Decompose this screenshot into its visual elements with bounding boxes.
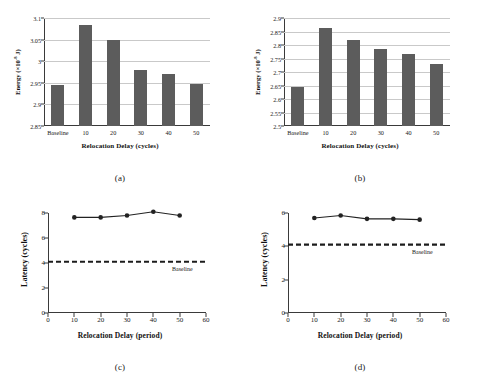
x-tick-label: 60 [203, 313, 210, 324]
y-axis-title-c: Latency (cycles) [20, 214, 29, 306]
bar [107, 40, 120, 126]
x-axis-title-c: Relocation Delay (period) [0, 331, 240, 340]
data-point-marker: 50: 5.6 [417, 217, 422, 222]
x-axis-title-a: Relocation Delay (cycles) [0, 142, 240, 150]
x-tick-label: 50 [416, 313, 423, 324]
x-tick-label: 60 [443, 313, 450, 324]
panel-c: 02468010203040506010: 7.6520: 7.6530: 7.… [0, 191, 240, 382]
y-tick-label: 3 [38, 58, 44, 65]
panel-b: 2.52.552.62.652.72.752.82.852.9Baseline1… [240, 0, 480, 191]
chart-d: 0246010203040506010: 5.720: 5.8530: 5.65… [240, 191, 480, 382]
x-tick-label: 10 [71, 313, 78, 324]
x-tick-label: 20 [110, 126, 116, 136]
y-tick-label: 2.75 [270, 55, 284, 62]
chart-a: 2.852.92.9533.053.1Baseline1020304050 En… [0, 0, 240, 191]
bar [134, 70, 147, 126]
data-point-marker: 30: 5.65 [365, 217, 370, 222]
chart-c: 02468010203040506010: 7.6520: 7.6530: 7.… [0, 191, 240, 382]
plot-area-d: 0246010203040506010: 5.720: 5.8530: 5.65… [288, 213, 446, 313]
figure-grid: 2.852.92.9533.053.1Baseline1020304050 En… [0, 0, 480, 382]
y-tick-label: 2.95 [30, 79, 44, 86]
data-point-marker: 20: 7.65 [98, 215, 103, 220]
y-tick-label: 2.8 [273, 42, 284, 49]
gridline [284, 45, 450, 46]
x-tick-label: 50 [433, 126, 439, 136]
x-tick-label: 0 [286, 313, 290, 324]
panel-caption-c: (c) [0, 362, 240, 372]
gridline [284, 113, 450, 114]
x-tick-label: 0 [46, 313, 50, 324]
x-tick-label: 40 [390, 313, 397, 324]
y-tick-label: 2.9 [273, 15, 284, 22]
data-point-marker: 10: 5.7 [312, 216, 317, 221]
panel-d: 0246010203040506010: 5.720: 5.8530: 5.65… [240, 191, 480, 382]
bar [402, 54, 415, 126]
chart-b: 2.52.552.62.652.72.752.82.852.9Baseline1… [240, 0, 480, 191]
data-point-marker: 50: 7.8 [177, 213, 182, 218]
gridline [44, 104, 210, 105]
x-tick-label: 40 [150, 313, 157, 324]
bar [347, 40, 360, 126]
y-tick-label: 2.65 [270, 82, 284, 89]
x-tick-label: 20 [350, 126, 356, 136]
x-axis-line [284, 125, 450, 126]
x-tick-label: 10 [82, 126, 88, 136]
x-tick-label: 30 [124, 313, 131, 324]
plot-area-c: 02468010203040506010: 7.6520: 7.6530: 7.… [48, 213, 206, 313]
plot-area-b: 2.52.552.62.652.72.752.82.852.9Baseline1… [284, 18, 450, 126]
y-tick-label: 3.1 [33, 15, 44, 22]
bar [374, 49, 387, 126]
panel-a: 2.852.92.9533.053.1Baseline1020304050 En… [0, 0, 240, 191]
x-tick-label: 40 [405, 126, 411, 136]
baseline-annotation: Baseline [412, 249, 433, 255]
y-axis-title-d: Latency (cycles) [260, 214, 269, 306]
panel-caption-a: (a) [0, 173, 240, 183]
x-tick-label: 50 [176, 313, 183, 324]
x-tick-label: 10 [311, 313, 318, 324]
gridline [284, 59, 450, 60]
y-axis-title-a: Energy (×10-8 J) [13, 29, 21, 115]
y-axis-line [44, 18, 45, 126]
panel-caption-d: (d) [240, 362, 480, 372]
y-axis-title-b: Energy (×10-8 J) [253, 29, 261, 115]
series-layer: 10: 7.6520: 7.6530: 7.840: 8.150: 7.8 [48, 213, 206, 313]
x-axis-title-d: Relocation Delay (period) [240, 331, 480, 340]
series-layer: 10: 5.720: 5.8530: 5.6540: 5.6550: 5.6 [288, 213, 446, 313]
plot-area-a: 2.852.92.9533.053.1Baseline1020304050 [44, 18, 210, 126]
x-axis-title-b: Relocation Delay (cycles) [240, 142, 480, 150]
data-point-marker: 20: 5.85 [338, 213, 343, 218]
bar [79, 25, 92, 126]
x-tick-label: 40 [165, 126, 171, 136]
y-tick-label: 2.55 [270, 109, 284, 116]
gridline [44, 18, 210, 19]
gridline [284, 86, 450, 87]
x-tick-label: 20 [337, 313, 344, 324]
x-tick-label: 20 [97, 313, 104, 324]
data-point-marker: 40: 5.65 [391, 217, 396, 222]
y-tick-label: 2.6 [273, 96, 284, 103]
baseline-annotation: Baseline [172, 266, 193, 272]
gridline [44, 61, 210, 62]
bar [430, 64, 443, 126]
gridline [44, 83, 210, 84]
y-tick-label: 2.7 [273, 69, 284, 76]
y-tick-label: 3.05 [30, 36, 44, 43]
gridline [284, 18, 450, 19]
x-tick-label: 30 [364, 313, 371, 324]
x-tick-label: 30 [138, 126, 144, 136]
panel-caption-b: (b) [240, 173, 480, 183]
x-tick-label: Baseline [287, 126, 308, 136]
y-tick-label: 2.5 [273, 123, 284, 130]
x-tick-label: 30 [378, 126, 384, 136]
bar [291, 87, 304, 126]
gridline [284, 32, 450, 33]
bar [162, 74, 175, 126]
bar [51, 85, 64, 126]
data-point-marker: 40: 8.1 [151, 209, 156, 214]
y-tick-label: 2.85 [30, 123, 44, 130]
gridline [284, 99, 450, 100]
data-point-marker: 10: 7.65 [72, 215, 77, 220]
bar [190, 84, 203, 126]
x-tick-label: 10 [322, 126, 328, 136]
y-tick-label: 2.85 [270, 28, 284, 35]
